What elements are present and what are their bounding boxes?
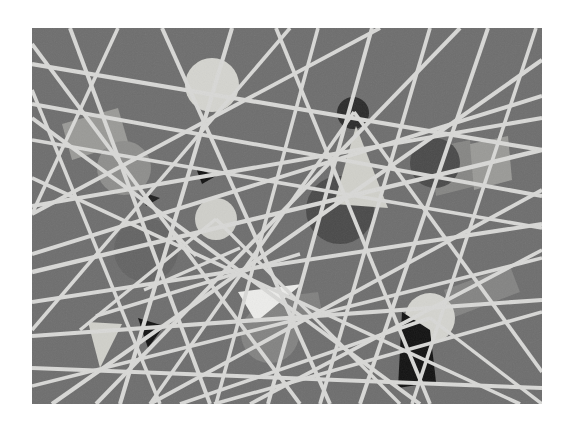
- artwork-page: [0, 0, 574, 432]
- shape-circle-pale-top: [185, 58, 239, 112]
- artwork-layer: [32, 28, 542, 404]
- artwork-canvas: [32, 28, 542, 404]
